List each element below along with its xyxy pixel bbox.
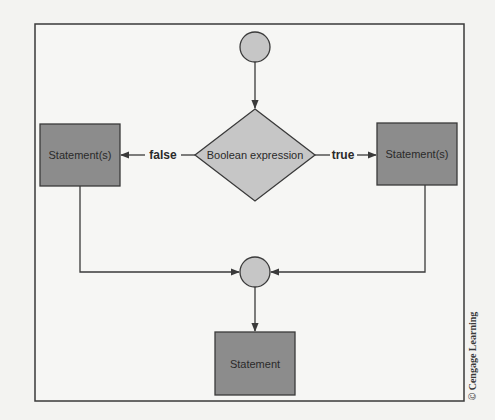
diagram-canvas: Boolean expression false true Statement(… xyxy=(0,0,495,420)
decision-label: Boolean expression xyxy=(207,149,304,161)
next-statement-node: Statement xyxy=(215,332,295,395)
start-connector xyxy=(240,32,270,62)
copyright-credit: © Cengage Learning xyxy=(466,306,480,406)
true-edge-label: true xyxy=(332,148,355,162)
join-connector xyxy=(240,257,270,287)
false-edge-label: false xyxy=(149,148,177,162)
flowchart: Boolean expression false true Statement(… xyxy=(0,0,495,420)
true-branch-label: Statement(s) xyxy=(386,148,449,160)
false-branch-node: Statement(s) xyxy=(40,124,120,186)
false-branch-label: Statement(s) xyxy=(49,149,112,161)
next-statement-label: Statement xyxy=(230,358,280,370)
true-branch-node: Statement(s) xyxy=(377,123,457,185)
